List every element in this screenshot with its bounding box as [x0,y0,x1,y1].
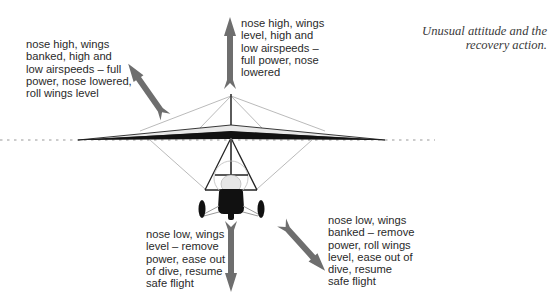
label-nose-high-wings-banked: nose high, wings banked, high and low ai… [26,38,132,99]
nose-wheel [228,212,234,220]
figure-caption: Unusual attitude and the recovery action… [422,24,547,52]
arrow-up-icon [224,17,236,89]
label-nose-low-wings-banked: nose low, wings banked – remove power, r… [328,214,414,288]
arrow-down-icon [225,221,237,292]
right-wheel [258,200,265,218]
arrow-down-right-icon [277,218,329,274]
left-wheel [199,200,206,218]
trike-pod [218,189,244,214]
label-nose-high-wings-level: nose high, wings level, high and low air… [241,17,324,78]
label-nose-low-wings-level: nose low, wings level – remove power, ea… [146,228,225,289]
unusual-attitude-diagram: nose high, wings banked, high and low ai… [0,0,555,295]
